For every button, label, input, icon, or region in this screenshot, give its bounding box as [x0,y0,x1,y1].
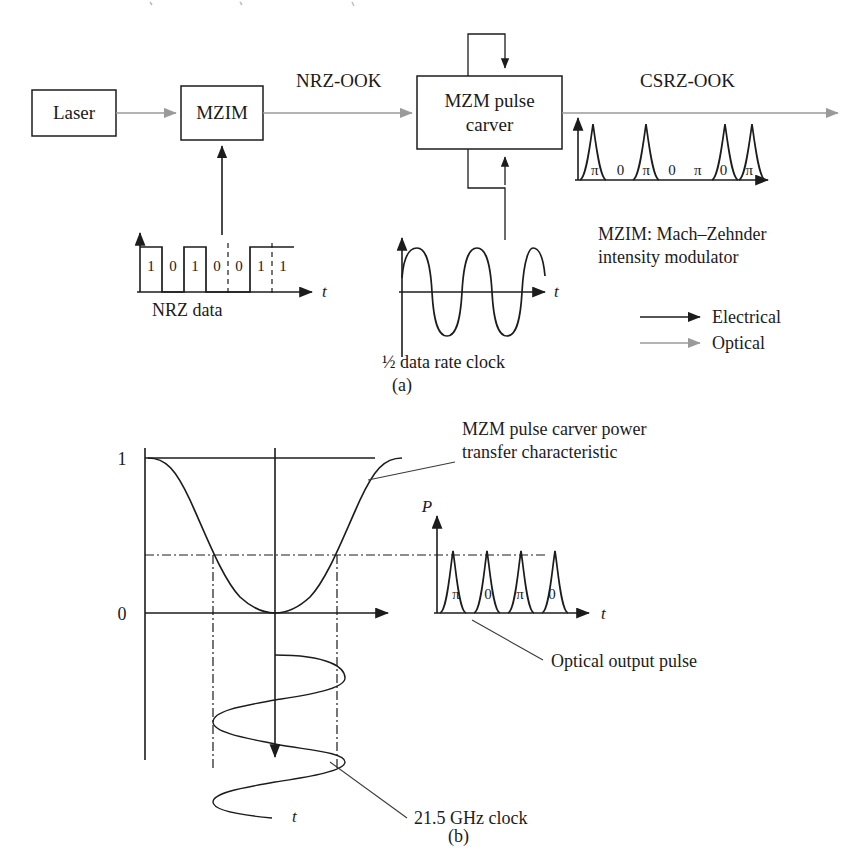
clock-caption: ½ data rate clock [382,352,505,373]
signal-label-csrz-ook: CSRZ-OOK [640,70,735,92]
nrz-time-axis-label: t [322,282,327,302]
transfer-annotation-line2: transfer characteristic [462,442,617,462]
transfer-plot-axes [145,448,388,760]
electrical-drive-mzm-bottom [468,149,505,240]
mzim-abbreviation-note: MZIM: Mach–Zehnder intensity modulator [598,224,766,267]
half-rate-clock-waveform [399,238,545,357]
panel-b: 1 0 MZM pulse carver power transfer char… [118,419,697,828]
electrical-drive-mzm-top [468,34,505,76]
output-pulse-train: P t [421,497,607,623]
transfer-annotation-leader [368,462,455,480]
clock-drive-annotation-leader [330,762,407,818]
transfer-ytick-0: 0 [118,604,127,624]
mzim-note-line2: intensity modulator [598,247,738,267]
output-time-axis-label: t [601,604,607,623]
mzim-note-line1: MZIM: Mach–Zehnder [598,224,766,244]
block-label-mzim: MZIM [181,86,263,140]
legend-label-optical: Optical [712,333,765,353]
clock-drive-waveform [213,655,345,818]
legend-item-electrical: Electrical [640,307,781,327]
legend-item-optical: Optical [640,333,765,353]
output-pulse-slot-labels: π 0 π 0 [440,586,568,603]
clock-time-axis-label: t [554,282,559,302]
panel-label-b: (b) [448,826,469,847]
figure-root: MZIM: Mach–Zehnder intensity modulator E… [0,0,846,850]
panel-label-a: (a) [392,375,412,396]
output-pulse-annotation-leader [472,620,543,660]
transfer-annotation-line1: MZM pulse carver power [462,419,646,439]
output-power-axis-label: P [421,497,432,516]
block-label-mzm-pulse-carver: MZM pulse carver [417,76,562,149]
legend: Electrical Optical [640,307,781,353]
legend-label-electrical: Electrical [712,307,781,327]
clock-drive-axis-label: t [292,807,298,826]
clock-drive-annotation: 21.5 GHz clock [414,808,527,828]
signal-label-nrz-ook: NRZ-OOK [296,70,382,92]
nrz-bit-labels: 1 0 1 0 0 1 1 [140,258,294,275]
csrz-slot-labels: π 0 π 0 π 0 π [582,162,762,179]
nrz-caption: NRZ data [152,300,222,321]
transfer-ytick-1: 1 [118,449,127,469]
output-pulse-annotation: Optical output pulse [551,651,697,671]
block-label-laser: Laser [32,90,116,136]
clipped-text-remnant [150,2,354,6]
